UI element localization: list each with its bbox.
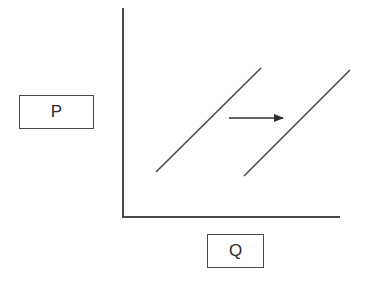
supply-shift-diagram [0,0,370,290]
original-curve [156,68,261,172]
y-axis-label-box: P [19,95,94,129]
y-axis-label: P [51,102,62,122]
x-axis-label: Q [229,241,242,261]
x-axis-label-box: Q [207,234,264,268]
shifted-curve [244,70,350,176]
